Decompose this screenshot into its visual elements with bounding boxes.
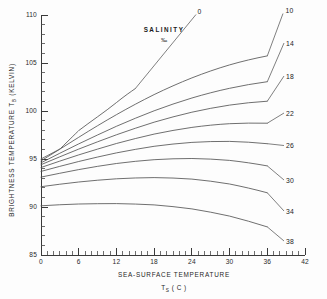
y-tick-label-100: 100 <box>25 107 37 114</box>
curve-label-14: 14 <box>286 40 294 47</box>
leader-salinity-10 <box>267 14 283 56</box>
x-tick-label-36: 36 <box>263 258 271 265</box>
x-tick-label-6: 6 <box>77 258 81 265</box>
curve-labels: 0 10 14 18 22 26 30 34 38 <box>198 7 295 245</box>
y-tick-label-90: 90 <box>29 203 37 210</box>
legend-salinity: SALINITY ‰ <box>144 26 185 43</box>
y-tick-label-105: 105 <box>25 59 37 66</box>
x-axis-tick-labels: 0 6 12 18 24 30 36 42 <box>39 258 309 265</box>
curve-label-0: 0 <box>198 8 202 15</box>
curve-label-30: 30 <box>286 177 294 184</box>
x-axis-title: SEA-SURFACE TEMPERATURE <box>118 271 230 278</box>
curve-salinity-10 <box>41 56 267 161</box>
leader-salinity-30 <box>267 166 284 180</box>
leader-salinity-22 <box>267 113 284 123</box>
curve-label-26: 26 <box>286 142 294 149</box>
y-tick-label-85: 85 <box>29 251 37 258</box>
curve-label-22: 22 <box>286 110 294 117</box>
curve-label-18: 18 <box>286 73 294 80</box>
curve-label-10: 10 <box>286 7 294 14</box>
legend-unit-permille: ‰ <box>161 36 168 43</box>
y-axis-tick-labels: 110 105 100 95 90 85 <box>25 11 37 258</box>
leader-salinity-18 <box>267 76 284 101</box>
x-axis-title-group: SEA-SURFACE TEMPERATURE TS ( C ) <box>118 271 230 293</box>
x-axis-unit: ( C ) <box>169 284 186 292</box>
x-tick-label-18: 18 <box>150 258 158 265</box>
leader-salinity-38 <box>267 227 284 241</box>
y-axis-title: BRIGHTNESS TEMPERATURE <box>8 109 15 217</box>
y-tick-label-110: 110 <box>26 11 37 18</box>
curve-label-leaders <box>135 14 284 242</box>
salinity-brightness-temperature-chart: 110 105 100 95 90 85 <box>0 0 327 299</box>
x-axis-symbol-unit: TS ( C ) <box>161 284 186 293</box>
leader-salinity-26 <box>267 144 284 146</box>
y-axis-title-full: BRIGHTNESS TEMPERATURE TB (KELVIN) <box>8 63 17 217</box>
x-tick-label-30: 30 <box>226 258 234 265</box>
y-tick-label-95: 95 <box>29 155 37 162</box>
y-axis-ticks <box>41 15 48 255</box>
legend-title: SALINITY <box>144 26 185 33</box>
figure-container: 110 105 100 95 90 85 <box>0 0 327 299</box>
curve-salinity-34 <box>41 178 267 193</box>
y-axis-symbol: T <box>8 102 15 109</box>
y-axis-title-group: BRIGHTNESS TEMPERATURE TB (KELVIN) <box>8 63 17 217</box>
data-curves <box>41 56 267 227</box>
curve-salinity-30 <box>41 159 267 178</box>
y-axis-unit: (KELVIN) <box>8 63 16 98</box>
curve-salinity-38 <box>41 204 267 227</box>
axes <box>41 15 305 255</box>
leader-salinity-34 <box>267 193 284 211</box>
x-axis-ticks <box>41 248 305 255</box>
x-tick-label-24: 24 <box>188 258 196 265</box>
x-tick-label-42: 42 <box>301 258 309 265</box>
curve-label-38: 38 <box>286 238 294 245</box>
curve-label-34: 34 <box>286 208 294 215</box>
x-tick-label-12: 12 <box>113 258 121 265</box>
x-tick-label-0: 0 <box>39 258 43 265</box>
